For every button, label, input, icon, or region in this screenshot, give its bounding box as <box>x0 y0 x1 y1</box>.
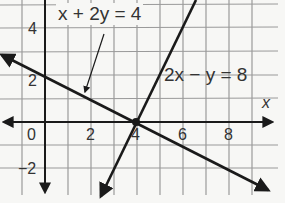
tick-x-8: 8 <box>224 126 233 144</box>
tick-y-2: 2 <box>28 72 37 90</box>
annotation-arrow <box>85 34 104 92</box>
x-axis-label: x <box>262 94 270 112</box>
equation-label-2: 2x − y = 8 <box>164 64 247 86</box>
graph-canvas <box>0 0 285 203</box>
equation-label-1: x + 2y = 4 <box>56 3 143 25</box>
tick-x-4: 4 <box>131 126 140 144</box>
tick-x-6: 6 <box>178 126 187 144</box>
tick-y-neg2: −2 <box>18 160 36 178</box>
tick-y-4: 4 <box>28 20 37 38</box>
grid <box>0 0 278 195</box>
tick-x-0: 0 <box>27 126 36 144</box>
tick-x-2: 2 <box>86 126 95 144</box>
intersection-point <box>132 118 140 126</box>
axes <box>4 0 272 192</box>
